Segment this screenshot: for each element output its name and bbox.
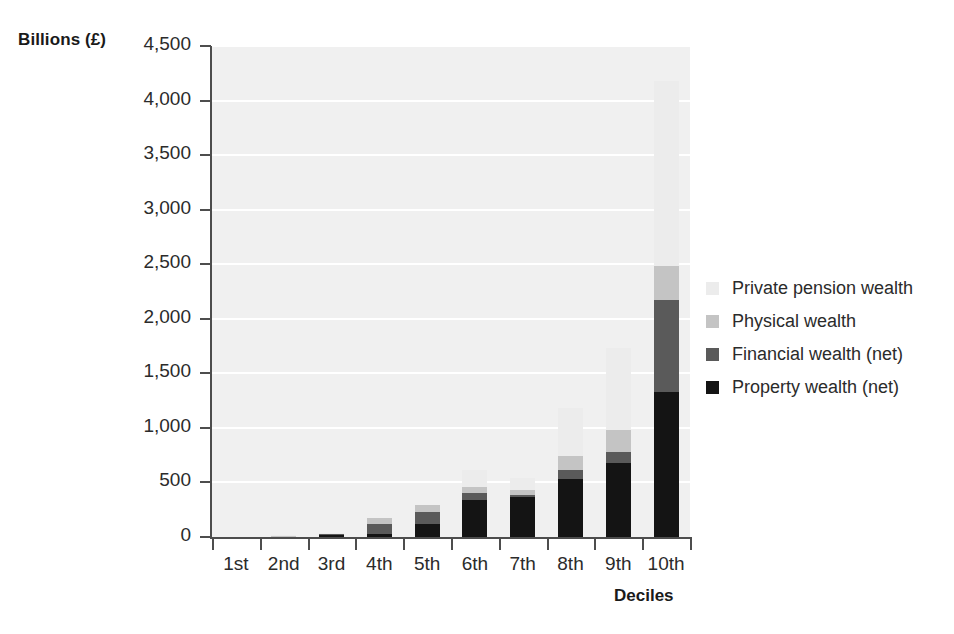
y-axis-line [210, 46, 212, 539]
x-axis-tick-label: 4th [355, 553, 403, 575]
legend-swatch-icon [706, 348, 719, 361]
y-axis-tick [200, 427, 211, 429]
y-axis-tick-label: 1,500 [143, 360, 191, 382]
x-axis-title: Deciles [614, 586, 674, 606]
bar-6th [462, 470, 487, 537]
y-axis-tick [200, 372, 211, 374]
y-axis-tick-label: 2,500 [143, 251, 191, 273]
legend-item[interactable]: Property wealth (net) [706, 371, 913, 404]
gridline [212, 263, 690, 265]
bar-segment [319, 533, 344, 534]
bar-segment [558, 479, 583, 537]
x-axis-tick-label: 1st [212, 553, 260, 575]
y-axis-tick-label: 3,500 [143, 142, 191, 164]
legend-item[interactable]: Financial wealth (net) [706, 338, 913, 371]
legend-swatch-icon [706, 282, 719, 295]
bar-1st [223, 536, 248, 537]
bar-segment [558, 408, 583, 456]
bar-segment [271, 536, 296, 537]
x-axis-tick [594, 539, 596, 550]
bar-2nd [271, 535, 296, 537]
bar-segment [319, 533, 344, 534]
bar-8th [558, 408, 583, 537]
legend-label: Private pension wealth [732, 278, 913, 299]
legend-label: Physical wealth [732, 311, 856, 332]
bar-segment [510, 497, 535, 537]
y-axis-tick-label: 1,000 [143, 415, 191, 437]
bar-segment [319, 535, 344, 537]
y-axis-title: Billions (£) [18, 30, 106, 50]
y-axis-tick-label: 2,000 [143, 306, 191, 328]
legend-label: Financial wealth (net) [732, 344, 903, 365]
chart-legend: Private pension wealthPhysical wealthFin… [706, 272, 913, 404]
bar-5th [415, 505, 440, 537]
bar-segment [654, 266, 679, 299]
legend-swatch-icon [706, 381, 719, 394]
x-axis-tick-label: 8th [547, 553, 595, 575]
bar-9th [606, 348, 631, 537]
bar-3rd [319, 533, 344, 537]
x-axis-tick [642, 539, 644, 550]
x-axis-tick-label: 5th [403, 553, 451, 575]
stacked-bar-chart: Billions (£) 05001,0001,5002,0002,5003,0… [0, 0, 954, 634]
x-axis-tick-label: 9th [594, 553, 642, 575]
gridline [212, 154, 690, 156]
x-axis-tick [355, 539, 357, 550]
bar-10th [654, 81, 679, 537]
y-axis-tick [200, 481, 211, 483]
x-axis-tick [403, 539, 405, 550]
bar-segment [558, 470, 583, 479]
gridline [212, 318, 690, 320]
y-axis-tick [200, 318, 211, 320]
y-axis-tick [200, 154, 211, 156]
x-axis-tick [547, 539, 549, 550]
bar-segment [510, 490, 535, 495]
legend-item[interactable]: Physical wealth [706, 305, 913, 338]
gridline [212, 100, 690, 102]
x-axis-tick [212, 539, 214, 550]
bar-segment [510, 495, 535, 497]
x-axis-tick-label: 7th [499, 553, 547, 575]
x-axis-tick-label: 10th [642, 553, 690, 575]
bar-segment [319, 534, 344, 535]
bar-segment [367, 534, 392, 537]
bar-segment [367, 524, 392, 534]
bar-segment [558, 456, 583, 470]
bar-4th [367, 518, 392, 537]
y-axis-tick [200, 100, 211, 102]
bar-segment [606, 348, 631, 430]
y-axis-tick [200, 263, 211, 265]
x-axis-tick-label: 3rd [308, 553, 356, 575]
y-axis-tick [200, 45, 211, 47]
x-axis-tick [260, 539, 262, 550]
gridline [212, 45, 690, 47]
y-axis-tick-label: 4,000 [143, 88, 191, 110]
bar-segment [462, 470, 487, 487]
bar-segment [462, 493, 487, 500]
legend-item[interactable]: Private pension wealth [706, 272, 913, 305]
x-axis-tick-label: 6th [451, 553, 499, 575]
bar-segment [606, 430, 631, 452]
bar-segment [367, 518, 392, 524]
bar-segment [415, 524, 440, 537]
y-axis-tick [200, 209, 211, 211]
bar-segment [654, 81, 679, 266]
y-axis-tick-label: 0 [180, 524, 191, 546]
bar-7th [510, 478, 535, 537]
gridline [212, 209, 690, 211]
bar-segment [510, 478, 535, 490]
x-axis-tick [308, 539, 310, 550]
legend-label: Property wealth (net) [732, 377, 899, 398]
legend-swatch-icon [706, 315, 719, 328]
x-axis-tick [690, 539, 692, 550]
x-axis-tick-label: 2nd [260, 553, 308, 575]
y-axis-tick-label: 500 [159, 469, 191, 491]
bar-segment [606, 452, 631, 463]
bar-segment [462, 487, 487, 493]
x-axis-tick [499, 539, 501, 550]
y-axis-tick-label: 3,000 [143, 197, 191, 219]
bar-segment [654, 392, 679, 537]
x-axis-tick [451, 539, 453, 550]
bar-segment [415, 512, 440, 524]
bar-segment [462, 500, 487, 537]
